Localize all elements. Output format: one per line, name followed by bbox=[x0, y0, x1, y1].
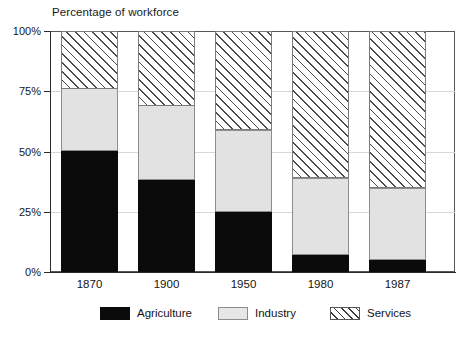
bar-1980 bbox=[292, 31, 349, 272]
x-axis-label-1900: 1900 bbox=[138, 278, 195, 290]
bar-1987 bbox=[369, 31, 426, 272]
x-axis-label-1980: 1980 bbox=[292, 278, 349, 290]
legend-item-services[interactable]: Services bbox=[330, 307, 411, 320]
x-axis-label-1987: 1987 bbox=[369, 278, 426, 290]
bar-segment-1900-industry bbox=[138, 105, 195, 180]
bar-segment-1900-agriculture bbox=[138, 180, 195, 272]
legend-label-industry: Industry bbox=[255, 307, 296, 320]
stacked-bar-chart: Percentage of workforce 100%75%50%25%0% … bbox=[0, 0, 475, 347]
bar-segment-1900-services bbox=[138, 31, 195, 106]
x-axis-label-1950: 1950 bbox=[215, 278, 272, 290]
legend-item-agriculture[interactable]: Agriculture bbox=[100, 307, 192, 320]
bar-1950 bbox=[215, 31, 272, 272]
bar-segment-1980-agriculture bbox=[292, 255, 349, 272]
legend-label-agriculture: Agriculture bbox=[137, 307, 192, 320]
bar-segment-1950-industry bbox=[215, 130, 272, 212]
bar-segment-1950-services bbox=[215, 31, 272, 130]
chart-legend: AgricultureIndustryServices bbox=[0, 307, 475, 333]
bar-segment-1987-services bbox=[369, 31, 426, 188]
bar-segment-1987-agriculture bbox=[369, 260, 426, 272]
bar-1900 bbox=[138, 31, 195, 272]
bar-segment-1980-services bbox=[292, 31, 349, 178]
legend-label-services: Services bbox=[367, 307, 411, 320]
legend-item-industry[interactable]: Industry bbox=[218, 307, 296, 320]
bars-layer bbox=[0, 0, 475, 347]
solid-black-swatch bbox=[100, 307, 130, 320]
bar-segment-1870-agriculture bbox=[61, 151, 118, 272]
bar-segment-1950-agriculture bbox=[215, 212, 272, 272]
bar-segment-1870-services bbox=[61, 31, 118, 89]
bar-segment-1980-industry bbox=[292, 178, 349, 255]
bar-1870 bbox=[61, 31, 118, 272]
diagonal-hatch-swatch bbox=[330, 307, 360, 320]
light-gray-swatch bbox=[218, 307, 248, 320]
bar-segment-1870-industry bbox=[61, 88, 118, 151]
x-axis-label-1870: 1870 bbox=[61, 278, 118, 290]
bar-segment-1987-industry bbox=[369, 188, 426, 260]
